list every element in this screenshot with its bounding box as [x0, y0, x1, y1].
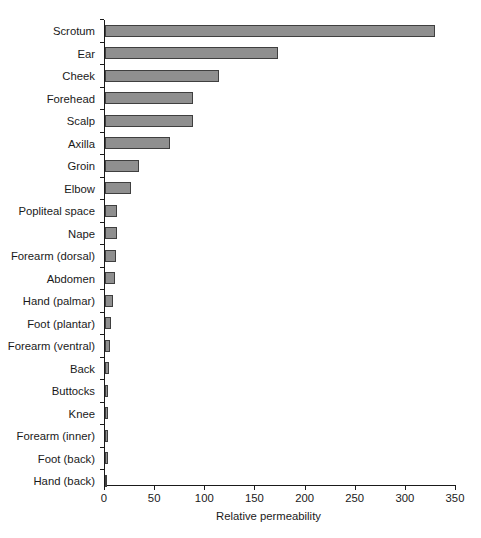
bar-category-label: Cheek	[62, 65, 104, 88]
bar-category-label: Nape	[68, 223, 104, 246]
x-axis-tick	[204, 485, 205, 490]
bar-row: Hand (back)	[104, 470, 455, 493]
bar-row: Cheek	[104, 65, 455, 88]
bar-row: Foot (back)	[104, 448, 455, 471]
bar-category-label: Abdomen	[47, 268, 104, 291]
bar-row: Abdomen	[104, 268, 455, 291]
bar-category-label: Buttocks	[52, 380, 104, 403]
bar-category-label: Back	[70, 358, 104, 381]
bar	[105, 272, 115, 284]
bar	[105, 115, 193, 127]
relative-permeability-bar-chart: ScrotumEarCheekForeheadScalpAxillaGroinE…	[0, 0, 481, 538]
bar-row: Nape	[104, 223, 455, 246]
x-axis-tick-label: 300	[385, 492, 425, 504]
bar-category-label: Foot (plantar)	[27, 313, 104, 336]
bar-row: Scalp	[104, 110, 455, 133]
bar-row: Knee	[104, 403, 455, 426]
x-axis-title: Relative permeability	[0, 510, 481, 522]
bar	[105, 340, 110, 352]
bar-category-label: Forearm (dorsal)	[11, 245, 104, 268]
x-axis-tick-label: 100	[184, 492, 224, 504]
bar	[105, 385, 108, 397]
bar	[105, 205, 117, 217]
bar-category-label: Forearm (inner)	[17, 425, 104, 448]
bar-row: Forearm (ventral)	[104, 335, 455, 358]
bar-row: Elbow	[104, 178, 455, 201]
x-axis-tick	[104, 485, 105, 490]
plot-area: ScrotumEarCheekForeheadScalpAxillaGroinE…	[104, 20, 455, 485]
bar-row: Popliteal space	[104, 200, 455, 223]
x-axis-tick	[305, 485, 306, 490]
bar	[105, 92, 193, 104]
bar-row: Forehead	[104, 88, 455, 111]
bar	[105, 475, 107, 487]
x-axis-tick-label: 200	[285, 492, 325, 504]
bar-row: Groin	[104, 155, 455, 178]
x-axis-tick-label: 0	[84, 492, 124, 504]
bar-category-label: Foot (back)	[38, 448, 104, 471]
bar-row: Forearm (dorsal)	[104, 245, 455, 268]
bar-category-label: Hand (back)	[33, 470, 104, 493]
x-axis-tick	[254, 485, 255, 490]
bar-category-label: Popliteal space	[18, 200, 104, 223]
bar-category-label: Elbow	[64, 178, 104, 201]
bar	[105, 295, 113, 307]
bar	[105, 430, 108, 442]
x-axis-tick	[154, 485, 155, 490]
x-axis-tick	[455, 485, 456, 490]
bar	[105, 160, 139, 172]
bar-category-label: Forehead	[47, 88, 104, 111]
bar	[105, 407, 108, 419]
bar-row: Axilla	[104, 133, 455, 156]
x-axis-tick-label: 350	[435, 492, 475, 504]
bar-category-label: Scrotum	[53, 20, 104, 43]
bar-row: Hand (palmar)	[104, 290, 455, 313]
x-axis-tick	[405, 485, 406, 490]
bar	[105, 250, 116, 262]
bar	[105, 25, 435, 37]
bar-category-label: Ear	[77, 43, 104, 66]
x-axis-tick	[355, 485, 356, 490]
x-axis-tick-label: 50	[134, 492, 174, 504]
bar-category-label: Knee	[69, 403, 104, 426]
bar-row: Ear	[104, 43, 455, 66]
bar-row: Scrotum	[104, 20, 455, 43]
bar-category-label: Forearm (ventral)	[8, 335, 104, 358]
bar-row: Back	[104, 358, 455, 381]
bar	[105, 47, 278, 59]
bar	[105, 317, 111, 329]
bar	[105, 227, 117, 239]
bar	[105, 70, 219, 82]
x-axis-title-label: Relative permeability	[216, 510, 321, 522]
bar	[105, 362, 109, 374]
x-axis-tick-label: 150	[234, 492, 274, 504]
bar-category-label: Hand (palmar)	[23, 290, 104, 313]
bar	[105, 452, 108, 464]
bar-category-label: Groin	[67, 155, 104, 178]
bar-row: Buttocks	[104, 380, 455, 403]
bar-category-label: Axilla	[68, 133, 104, 156]
bar	[105, 182, 131, 194]
x-axis-tick-label: 250	[335, 492, 375, 504]
bar	[105, 137, 170, 149]
bar-category-label: Scalp	[67, 110, 104, 133]
bar-row: Forearm (inner)	[104, 425, 455, 448]
bar-row: Foot (plantar)	[104, 313, 455, 336]
